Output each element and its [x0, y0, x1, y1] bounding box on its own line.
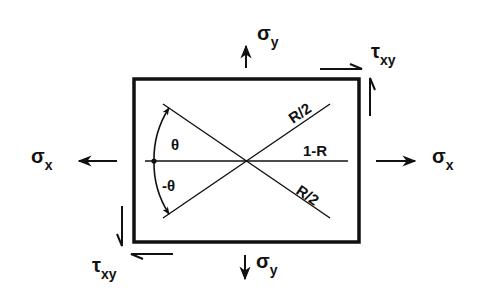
tau-xy-left-vertical-arrow-icon: [117, 206, 122, 246]
tau-xy-right-vertical-arrow-icon: [370, 78, 375, 116]
stress-element-diagram: θ -θ R/2 1-R R/2 σy σy σx σx τxy τxy: [0, 0, 482, 301]
minus-theta-label: -θ: [162, 177, 175, 194]
tau-xy-bottom-left-label: τxy: [92, 254, 117, 282]
stress-arrows: [79, 46, 415, 279]
sigma-x-left-label: σx: [31, 145, 53, 173]
tau-xy-bottom-horizontal-arrow-icon: [131, 254, 173, 259]
lower-r-half-label: R/2: [293, 181, 322, 208]
theta-label: θ: [171, 136, 179, 153]
theta-arc-icon: [154, 108, 169, 161]
sigma-x-right-label: σx: [432, 145, 454, 173]
upper-r-half-label: R/2: [285, 99, 314, 126]
sigma-y-bottom-label: σy: [256, 250, 278, 278]
one-minus-r-label: 1-R: [303, 142, 327, 159]
tau-xy-top-right-label: τxy: [371, 40, 396, 68]
arc-origin-dot-icon: [151, 158, 156, 163]
tau-xy-top-horizontal-arrow-icon: [320, 64, 362, 69]
sigma-y-top-label: σy: [257, 22, 279, 50]
